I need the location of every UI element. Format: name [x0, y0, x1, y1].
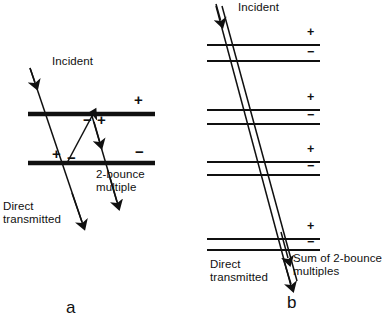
panel-b-sign-plus-pair-3: +	[307, 143, 314, 156]
panel-a-two-bounce-multiple-label: 2-bounce multiple	[96, 168, 145, 194]
panel-b-sign-plus-pair-1: +	[307, 26, 314, 39]
panel-b-direct-transmitted-arrow	[283, 258, 291, 284]
panel-b-direct-transmitted-label: Direct transmitted	[210, 258, 268, 284]
panel-b-direct-transmitted-ray	[216, 6, 291, 286]
panel-b-sign-plus-pair-4: +	[307, 220, 314, 233]
figure-root: Incident Direct transmitted 2-bounce mul…	[0, 0, 387, 324]
panel-b-sum-of-multiples-label: Sum of 2-bounce multiples	[293, 252, 382, 278]
panel-a-sign-minus-above-lower-right: −	[67, 150, 76, 165]
panel-a-sign-minus-below-upper-left: −	[83, 112, 92, 127]
panel-a-sign-minus-below-lower-right: −	[135, 144, 144, 159]
panel-a-incident-label: Incident	[52, 55, 93, 68]
panel-b-sign-minus-pair-3: −	[307, 160, 314, 173]
panel-a-incident-arrow	[30, 68, 35, 82]
panel-a-direct-transmitted-arrow	[72, 193, 82, 222]
panel-b-incident-arrow	[216, 4, 221, 20]
panel-a-sign-plus-above-upper: +	[134, 92, 143, 107]
panel-b-sign-minus-pair-1: −	[307, 46, 314, 59]
panel-b-caption: b	[287, 293, 297, 312]
panel-b-incident-label: Incident	[238, 1, 279, 14]
panel-b-sign-plus-pair-2: +	[307, 91, 314, 104]
panel-b-group	[207, 4, 320, 286]
panel-a-caption: a	[66, 298, 76, 317]
panel-a-sign-plus-below-upper-right: +	[97, 112, 106, 127]
panel-b-sign-minus-pair-4: −	[307, 236, 314, 249]
panel-b-sign-minus-pair-2: −	[307, 109, 314, 122]
panel-a-direct-transmitted-label: Direct transmitted	[3, 200, 61, 226]
panel-a-sign-plus-above-lower-left: +	[52, 146, 61, 161]
